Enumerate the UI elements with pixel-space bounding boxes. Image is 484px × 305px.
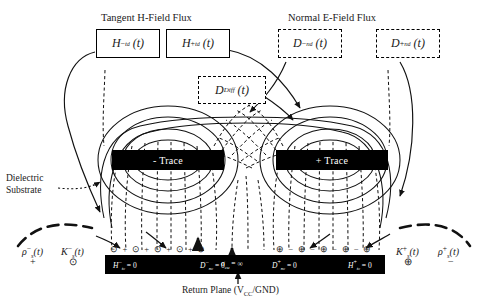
trace-positive-label: + Trace (316, 155, 348, 166)
flux-box-h-plus-arg: (t) (203, 36, 214, 51)
plane-label-h-left: H−tc = 0 (113, 259, 137, 271)
plane-label-d-right: D+nc = 0 (272, 259, 297, 271)
figure-canvas: Tangent H-Field Flux Normal E-Field Flux… (0, 0, 484, 305)
flux-box-d-minus-symbol: D (293, 36, 302, 51)
trace-negative-label: - Trace (153, 155, 183, 166)
charge-sign-left-rho: + (30, 256, 36, 267)
charge-sign-right-k: ⊕ (404, 256, 412, 267)
charge-label-right-k-symbol: K (396, 246, 403, 257)
flux-box-d-diff-sub: Diff (224, 86, 235, 94)
plane-label-h-left-sub2: c (123, 266, 125, 271)
plane-label-h-left-eq: = 0 (127, 261, 137, 270)
flux-box-d-diff[interactable]: DDiff (t) (198, 76, 266, 104)
return-plane-caption-prefix: Return Plane (V (182, 285, 244, 295)
flux-box-d-plus-sub2: d (408, 41, 411, 47)
surface-charge-row-left: ⊙ + ⊙ + ⊙ + ⊙ + ⊙ (110, 244, 207, 254)
heading-tangent-h-field-flux: Tangent H-Field Flux (101, 12, 192, 23)
return-plane-caption-suffix: /GND) (252, 285, 278, 295)
flux-box-h-minus-sub2: d (127, 41, 130, 47)
flux-box-h-minus-symbol: H (112, 36, 121, 51)
flux-box-h-minus[interactable]: H−td (t) (96, 29, 160, 58)
charge-sign-right-rho: − (448, 256, 454, 267)
substrate-leader (58, 182, 100, 189)
dielectric-substrate-line2: Substrate (6, 184, 43, 196)
charge-sign-left-k: ⊙ (69, 256, 77, 267)
plane-label-d-right-eq: = 0 (287, 261, 297, 270)
callout-leaders (64, 50, 412, 212)
plane-label-h-right-sup: + (353, 259, 356, 265)
plane-label-h-right: H+tc = 0 (348, 259, 372, 271)
charge-label-left-k-symbol: K (61, 246, 68, 257)
plane-label-d-left-sub2: c (211, 266, 213, 271)
plane-label-h-left-sup: − (118, 259, 121, 265)
dielectric-substrate-boundary (18, 225, 470, 246)
flux-box-d-minus-arg: (t) (316, 36, 327, 51)
trace-positive[interactable]: + Trace (276, 150, 388, 170)
flux-box-d-minus-sub2: d (310, 41, 313, 47)
plane-label-sigma-eq: = ∞ (231, 259, 242, 268)
plane-label-d-left-sup: − (205, 259, 208, 265)
flux-box-d-plus-symbol: D (391, 36, 400, 51)
dielectric-substrate-label: Dielectric Substrate (6, 172, 43, 196)
heading-normal-e-field-flux: Normal E-Field Flux (288, 12, 376, 23)
plane-label-h-right-eq: = 0 (362, 261, 372, 270)
flux-box-d-plus[interactable]: D+nd (t) (376, 29, 440, 58)
flux-box-h-plus-sub2: d (197, 41, 200, 47)
flux-box-d-minus[interactable]: D−nd (t) (278, 29, 342, 58)
flux-box-d-diff-symbol: D (215, 83, 224, 98)
surface-charge-row-right: ⊕ − ⊕ − ⊕ − ⊕ − ⊕ (276, 244, 373, 254)
flux-box-h-minus-arg: (t) (133, 36, 144, 51)
return-plane-caption: Return Plane (VCC/GND) (182, 285, 279, 297)
plane-label-d-right-sub2: c (283, 266, 285, 271)
flux-box-h-plus-symbol: H (182, 36, 191, 51)
flux-box-d-plus-arg: (t) (414, 36, 425, 51)
flux-box-d-diff-arg: (t) (238, 83, 249, 98)
plane-label-sigma: σcu = ∞ (221, 259, 243, 270)
trace-negative[interactable]: - Trace (112, 150, 224, 170)
plane-label-d-right-sup: + (277, 259, 280, 265)
plane-label-sigma-sub: cu (225, 265, 230, 270)
return-plane-bar[interactable] (105, 255, 385, 274)
plane-label-h-right-sub2: c (358, 266, 360, 271)
dielectric-substrate-line1: Dielectric (6, 172, 43, 184)
flux-box-h-plus[interactable]: H+td (t) (166, 29, 230, 58)
